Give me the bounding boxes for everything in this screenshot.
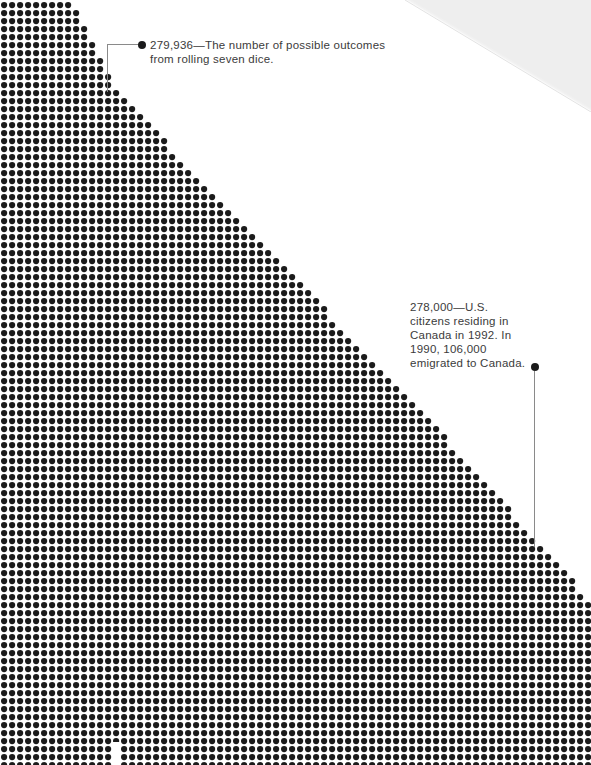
callout-bullet-canada (531, 363, 539, 371)
bottom-notch (112, 742, 121, 765)
callout-text-dice: 279,936—The number of possible outcomes … (150, 38, 400, 66)
leader-line-dice-vertical (107, 44, 108, 92)
callout-text-canada: 278,000—U.S. citizens residing in Canada… (410, 300, 528, 370)
leader-line-canada-vertical (534, 371, 535, 547)
callout-bullet-dice (138, 41, 146, 49)
unit-dot-field (0, 0, 591, 765)
page-canvas: 279,936—The number of possible outcomes … (0, 0, 591, 765)
leader-line-dice-horizontal (107, 44, 139, 45)
